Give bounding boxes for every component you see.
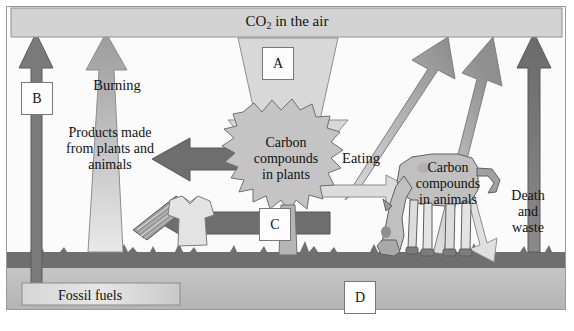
label-carbon-animals-line2: compounds — [396, 176, 500, 192]
label-death-line2: and — [497, 204, 559, 220]
question-box-b[interactable]: B — [21, 82, 53, 115]
question-box-d[interactable]: D — [344, 281, 376, 314]
label-products-line2: from plants and — [50, 141, 170, 157]
question-box-c[interactable]: C — [259, 208, 291, 241]
label-products: Products made from plants and animals — [50, 125, 170, 173]
label-death-and-waste: Death and waste — [497, 188, 559, 236]
label-burning: Burning — [78, 77, 156, 94]
co2-label-suffix: in the air — [271, 13, 328, 29]
question-box-c-label: C — [270, 217, 279, 233]
question-box-a-label: A — [273, 56, 283, 72]
label-carbon-in-animals: Carbon compounds in animals — [396, 160, 500, 208]
label-carbon-animals-line1: Carbon — [396, 160, 500, 176]
label-carbon-in-plants: Carbon compounds in plants — [231, 135, 341, 183]
label-carbon-plants-line1: Carbon — [231, 135, 341, 151]
co2-label-subscript: 2 — [266, 20, 271, 31]
co2-reservoir-label: CO2 in the air — [0, 13, 574, 30]
label-fossil-fuels: Fossil fuels — [22, 288, 180, 304]
question-box-a[interactable]: A — [262, 47, 294, 80]
label-death-line3: waste — [497, 220, 559, 236]
label-carbon-animals-line3: in animals — [396, 192, 500, 208]
question-box-b-label: B — [32, 91, 41, 107]
label-products-line3: animals — [50, 157, 170, 173]
label-carbon-plants-line2: compounds — [231, 151, 341, 167]
carbon-cycle-diagram: CO2 in the air A B C D Burning Products … — [0, 0, 574, 331]
co2-label-prefix: CO — [246, 13, 267, 29]
label-death-line1: Death — [497, 188, 559, 204]
question-box-d-label: D — [355, 290, 365, 306]
label-products-line1: Products made — [50, 125, 170, 141]
label-eating: Eating — [330, 150, 392, 167]
label-carbon-plants-line3: in plants — [231, 167, 341, 183]
